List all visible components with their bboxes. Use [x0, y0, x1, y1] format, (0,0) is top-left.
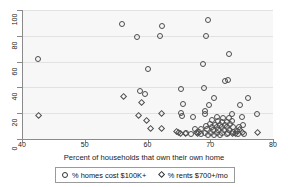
data-point-circle — [205, 132, 211, 138]
x-axis-title: Percent of households that own their own… — [0, 153, 288, 162]
legend-entry-homes: % homes cost $100K+ — [62, 171, 146, 180]
x-tick-label: 50 — [75, 141, 95, 148]
data-point-circle — [157, 33, 163, 39]
data-point-circle — [201, 85, 207, 91]
y-tick — [17, 10, 22, 11]
data-point-circle — [200, 61, 206, 67]
data-point-circle — [119, 21, 125, 27]
data-point-circle — [145, 66, 151, 72]
data-point-circle — [190, 114, 196, 120]
gridline — [22, 87, 273, 88]
scatter-plot-figure: 020406080100 4050607080 Percent of house… — [0, 0, 288, 187]
legend-entry-rents: % rents $700+/mo — [159, 171, 228, 180]
y-axis-line — [22, 10, 23, 139]
diamond-outline-icon — [157, 171, 164, 178]
gridline — [22, 36, 273, 37]
data-point-circle — [179, 113, 185, 119]
gridline — [22, 113, 273, 114]
legend: % homes cost $100K+ % rents $700+/mo — [55, 167, 235, 183]
gridline — [22, 10, 273, 11]
y-tick-label: 80 — [11, 35, 18, 55]
data-point-circle — [226, 51, 232, 57]
gridline — [22, 62, 273, 63]
y-tick — [17, 36, 22, 37]
y-tick-label: 20 — [11, 113, 18, 133]
data-point-circle — [178, 86, 184, 92]
y-tick-label: 100 — [11, 10, 18, 30]
y-tick-label: 40 — [11, 87, 18, 107]
y-tick — [17, 113, 22, 114]
data-point-circle — [239, 114, 245, 120]
circle-outline-icon — [62, 172, 68, 178]
y-tick — [17, 62, 22, 63]
data-point-circle — [142, 91, 148, 97]
legend-label-rents: % rents $700+/mo — [168, 171, 228, 180]
y-tick-label: 60 — [11, 61, 18, 81]
x-tick-label: 60 — [138, 141, 158, 148]
data-point-circle — [180, 101, 186, 107]
y-tick — [17, 87, 22, 88]
x-tick-label: 40 — [12, 141, 32, 148]
x-tick-label: 80 — [263, 141, 283, 148]
data-point-circle — [245, 95, 251, 101]
data-point-circle — [159, 23, 165, 29]
legend-label-homes: % homes cost $100K+ — [72, 171, 146, 180]
x-tick-label: 70 — [200, 141, 220, 148]
